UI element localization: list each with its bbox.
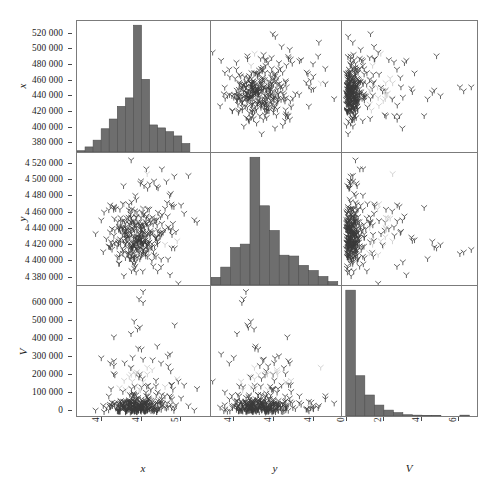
y-tick-label: 4 400 000 xyxy=(25,255,63,265)
x-tick-mark xyxy=(233,417,234,421)
y-tick-mark xyxy=(68,80,72,81)
x-tick-mark xyxy=(141,417,142,421)
y-tick-label: 4 460 000 xyxy=(25,207,63,217)
y-tick-mark xyxy=(68,33,72,34)
y-tick-label: 440 000 xyxy=(32,90,63,100)
y-tick-label: 4 500 000 xyxy=(25,174,63,184)
x-tick-mark xyxy=(346,417,347,421)
y-tick-mark xyxy=(68,48,72,49)
panel-y-V[interactable] xyxy=(210,285,341,416)
y-tick-label: 4 440 000 xyxy=(25,223,63,233)
panel-x-y[interactable] xyxy=(77,152,210,285)
y-tick-label: 4 380 000 xyxy=(25,272,63,282)
scatter-plot-matrix xyxy=(76,20,478,417)
y-tick-label: 4 480 000 xyxy=(25,190,63,200)
y-tick-label: 500 000 xyxy=(32,315,63,325)
panel-y-x[interactable] xyxy=(210,21,341,152)
y-tick-label: 500 000 xyxy=(32,43,63,53)
x-tick-mark xyxy=(421,417,422,421)
left-tick-labels: 520 000500 000480 000460 000440 000420 0… xyxy=(0,20,72,417)
y-tick-mark xyxy=(68,374,72,375)
y-tick-label: 520 000 xyxy=(32,28,63,38)
panel-V-y[interactable] xyxy=(341,152,477,285)
panel-x-V[interactable] xyxy=(77,285,210,416)
y-tick-mark xyxy=(68,356,72,357)
y-tick-mark xyxy=(68,228,72,229)
bottom-tick-labels: 400 000450 000500 0004 400 0004 450 0004… xyxy=(76,417,478,495)
x-tick-mark xyxy=(101,417,102,421)
y-tick-mark xyxy=(68,111,72,112)
y-tick-label: 400 000 xyxy=(32,122,63,132)
y-tick-label: 100 000 xyxy=(32,387,63,397)
y-tick-mark xyxy=(68,410,72,411)
y-tick-mark xyxy=(68,212,72,213)
x-tick-mark xyxy=(273,417,274,421)
panel-V-x[interactable] xyxy=(341,21,477,152)
y-tick-mark xyxy=(68,95,72,96)
y-tick-mark xyxy=(68,302,72,303)
panel-x-x[interactable] xyxy=(77,21,210,152)
y-tick-mark xyxy=(68,142,72,143)
y-tick-mark xyxy=(68,127,72,128)
x-tick-label: 0 xyxy=(336,417,346,422)
y-tick-mark xyxy=(68,320,72,321)
y-tick-label: 460 000 xyxy=(32,75,63,85)
y-tick-label: 420 000 xyxy=(32,106,63,116)
x-tick-mark xyxy=(313,417,314,421)
y-tick-mark xyxy=(68,260,72,261)
y-tick-label: 380 000 xyxy=(32,137,63,147)
x-tick-mark xyxy=(180,417,181,421)
y-tick-mark xyxy=(68,64,72,65)
y-tick-label: 200 000 xyxy=(32,369,63,379)
figure-root: x y V x y V 520 000500 000480 000460 000… xyxy=(0,0,491,495)
x-tick-mark xyxy=(458,417,459,421)
y-tick-label: 600 000 xyxy=(32,297,63,307)
y-tick-mark xyxy=(68,179,72,180)
y-tick-label: 400 000 xyxy=(32,333,63,343)
y-tick-mark xyxy=(68,195,72,196)
y-tick-mark xyxy=(68,338,72,339)
panel-V-V[interactable] xyxy=(341,285,477,416)
y-tick-label: 300 000 xyxy=(32,351,63,361)
y-tick-mark xyxy=(68,244,72,245)
y-tick-label: 480 000 xyxy=(32,59,63,69)
y-tick-label: 4 520 000 xyxy=(25,158,63,168)
y-tick-mark xyxy=(68,163,72,164)
x-tick-mark xyxy=(383,417,384,421)
y-tick-label: 4 420 000 xyxy=(25,239,63,249)
y-tick-mark xyxy=(68,277,72,278)
y-tick-label: 0 xyxy=(58,405,63,415)
y-tick-mark xyxy=(68,392,72,393)
panel-y-y[interactable] xyxy=(210,152,341,285)
